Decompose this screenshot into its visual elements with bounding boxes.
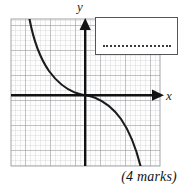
x-axis-label: x	[166, 89, 172, 102]
y-axis-label: y	[77, 0, 83, 13]
question-figure: y x (4 marks)	[0, 0, 182, 187]
marks-label: (4 marks)	[121, 169, 177, 185]
answer-dotted-line[interactable]	[103, 41, 171, 47]
answer-box[interactable]	[95, 17, 178, 55]
